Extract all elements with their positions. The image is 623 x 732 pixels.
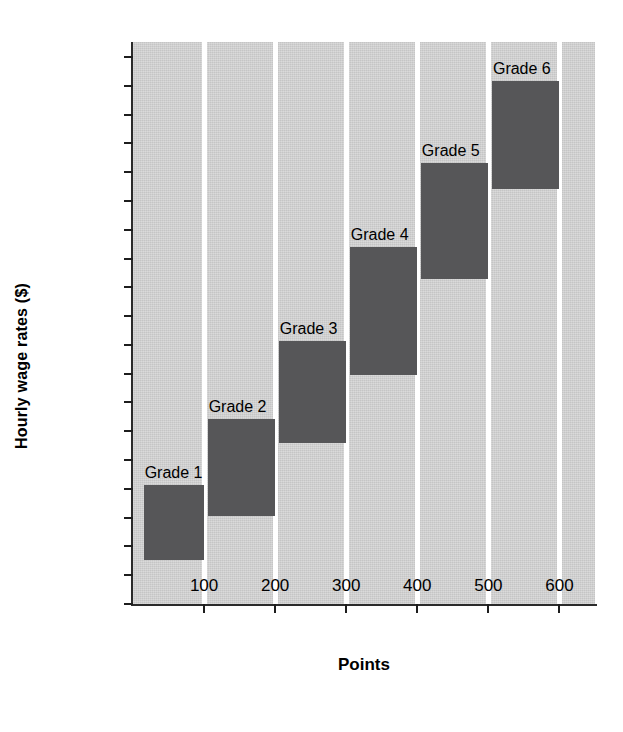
plot-area: Grade 1Grade 2Grade 3Grade 4Grade 5Grade… [133, 42, 595, 604]
y-axis-tick [124, 545, 133, 547]
grade-separator-band [486, 42, 491, 604]
y-axis-tick [124, 430, 133, 432]
x-axis-tick [558, 604, 560, 613]
x-axis-title: Points [133, 655, 595, 675]
y-axis-tick [124, 200, 133, 202]
y-axis-tick [124, 229, 133, 231]
bar-label-grade-4: Grade 4 [351, 226, 409, 244]
y-axis-tick [124, 574, 133, 576]
wage-structure-chart: Hourly wage rates ($) Grade 1Grade 2Grad… [0, 0, 623, 732]
y-axis-tick [124, 85, 133, 87]
y-axis-tick [124, 517, 133, 519]
x-axis-tick [203, 604, 205, 613]
y-axis-tick [124, 258, 133, 260]
x-axis-tick [487, 604, 489, 613]
grade-separator-band [344, 42, 349, 604]
bar-label-grade-2: Grade 2 [209, 398, 267, 416]
x-axis-tick-label: 300 [332, 576, 360, 596]
y-axis-tick [124, 488, 133, 490]
y-axis-tick [124, 56, 133, 58]
bar-grade-2 [208, 419, 276, 517]
y-axis-tick [124, 459, 133, 461]
y-axis-tick [124, 286, 133, 288]
x-axis-tick-label: 200 [261, 576, 289, 596]
bar-grade-1 [144, 485, 204, 560]
y-axis-title: Hourly wage rates ($) [0, 0, 44, 732]
bar-label-grade-6: Grade 6 [493, 60, 551, 78]
y-axis-tick [124, 401, 133, 403]
y-axis-tick [124, 142, 133, 144]
x-axis-tick [416, 604, 418, 613]
bar-grade-5 [421, 163, 489, 279]
x-axis-tick [274, 604, 276, 613]
bar-grade-4 [350, 247, 418, 375]
bar-grade-6 [492, 81, 560, 189]
x-axis-tick-label: 100 [190, 576, 218, 596]
y-axis-tick [124, 171, 133, 173]
grade-separator-band [273, 42, 278, 604]
bar-label-grade-5: Grade 5 [422, 142, 480, 160]
x-axis-tick [345, 604, 347, 613]
y-axis-tick [124, 373, 133, 375]
x-axis-tick-label: 600 [545, 576, 573, 596]
y-axis-tick [124, 114, 133, 116]
y-axis-tick [124, 315, 133, 317]
y-axis-tick [124, 603, 133, 605]
bar-label-grade-3: Grade 3 [280, 320, 338, 338]
y-axis-tick [124, 344, 133, 346]
bar-label-grade-1: Grade 1 [145, 464, 203, 482]
x-axis-line [131, 604, 597, 606]
x-axis-tick-label: 400 [403, 576, 431, 596]
x-axis-tick-label: 500 [474, 576, 502, 596]
bar-grade-3 [279, 341, 347, 442]
